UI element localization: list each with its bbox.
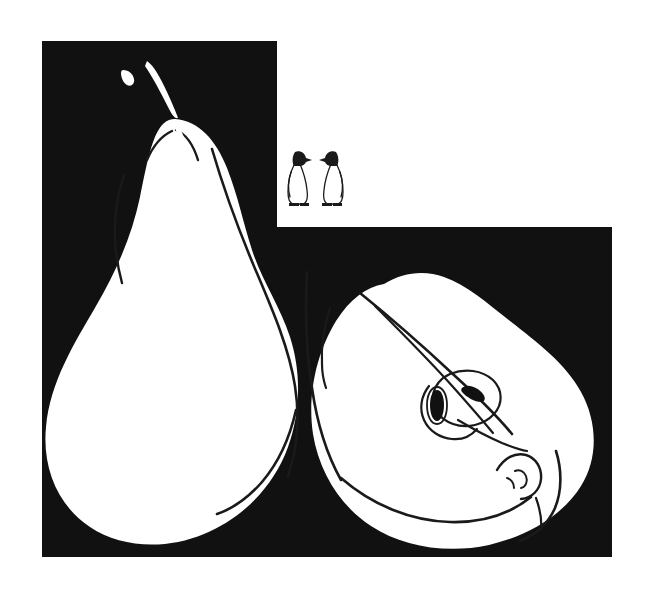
pears-illustration-svg — [0, 0, 649, 597]
illustration-canvas: Two Pears with Penguins High-contrast bl… — [0, 0, 649, 597]
penguin-left-feet — [289, 203, 309, 206]
penguin-right-feet — [322, 203, 342, 206]
pear-seed-1 — [430, 390, 444, 421]
